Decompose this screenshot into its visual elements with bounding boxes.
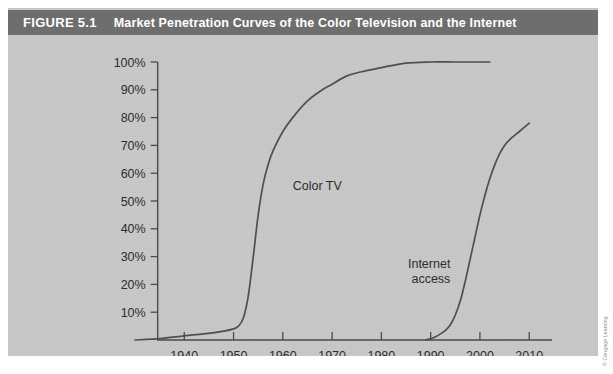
x-axis-tick-label: 1970 bbox=[318, 349, 346, 356]
series-curve-color-tv bbox=[135, 62, 490, 340]
x-axis-tick-label: 1990 bbox=[417, 349, 445, 356]
annotation-internet-access: Internetaccess bbox=[408, 257, 451, 286]
x-axis-tick-label: 1980 bbox=[367, 349, 395, 356]
y-axis-tick-label: 90% bbox=[121, 83, 146, 97]
y-axis-tick-label: 10% bbox=[121, 306, 146, 320]
y-axis-tick-label: 40% bbox=[121, 222, 146, 236]
y-axis-ticks-group: 10%20%30%40%50%60%70%80%90%100% bbox=[114, 56, 158, 320]
x-axis-tick-label: 1940 bbox=[170, 349, 198, 356]
x-axis-ticks-group: 19401950196019701980199020002010 bbox=[170, 332, 543, 356]
figure-title: Market Penetration Curves of the Color T… bbox=[114, 16, 517, 30]
series-annotations-group: Color TVInternetaccess bbox=[293, 179, 451, 286]
y-axis-tick-label: 60% bbox=[121, 167, 146, 181]
y-axis-tick-label: 20% bbox=[121, 278, 146, 292]
y-axis-tick-label: 80% bbox=[121, 111, 146, 125]
chart-area: 10%20%30%40%50%60%70%80%90%100% 19401950… bbox=[8, 35, 598, 356]
x-axis-tick-label: 1960 bbox=[269, 349, 297, 356]
figure-number: FIGURE 5.1 bbox=[23, 15, 97, 30]
x-axis-tick-label: 1950 bbox=[220, 349, 248, 356]
x-axis-tick-label: 2000 bbox=[466, 349, 494, 356]
x-axis-tick-label: 2010 bbox=[515, 349, 543, 356]
figure-title-bar: FIGURE 5.1 Market Penetration Curves of … bbox=[8, 10, 598, 35]
y-axis-tick-label: 30% bbox=[121, 250, 146, 264]
market-penetration-line-chart: 10%20%30%40%50%60%70%80%90%100% 19401950… bbox=[8, 35, 598, 356]
figure-container: FIGURE 5.1 Market Penetration Curves of … bbox=[0, 0, 613, 374]
copyright-credit-text: © Cengage Learning bbox=[602, 316, 608, 366]
axis-lines-group bbox=[158, 62, 552, 340]
copyright-credit: © Cengage Learning bbox=[602, 271, 613, 366]
series-curves-group bbox=[135, 62, 529, 340]
y-axis-tick-label: 70% bbox=[121, 139, 146, 153]
axis-line bbox=[158, 62, 552, 340]
annotation-color-tv: Color TV bbox=[293, 179, 343, 193]
y-axis-tick-label: 50% bbox=[121, 195, 146, 209]
y-axis-tick-label: 100% bbox=[114, 56, 146, 70]
series-curve-internet-access bbox=[426, 123, 529, 340]
